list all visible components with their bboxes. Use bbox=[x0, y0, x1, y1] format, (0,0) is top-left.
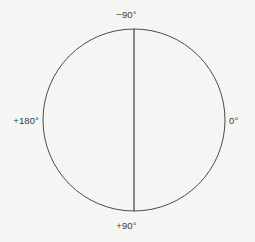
angle-label-top: −90° bbox=[0, 10, 254, 20]
angle-label-bottom: +90° bbox=[0, 221, 254, 231]
figure-canvas: −90° 0° +90° +180° bbox=[0, 0, 255, 242]
angle-label-right: 0° bbox=[229, 116, 238, 126]
angle-label-left: +180° bbox=[0, 116, 39, 126]
